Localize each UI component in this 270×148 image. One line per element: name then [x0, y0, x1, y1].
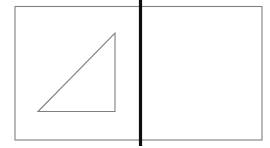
- figure-canvas: [0, 0, 270, 148]
- figure-svg: [0, 0, 270, 148]
- canvas-background: [0, 0, 270, 148]
